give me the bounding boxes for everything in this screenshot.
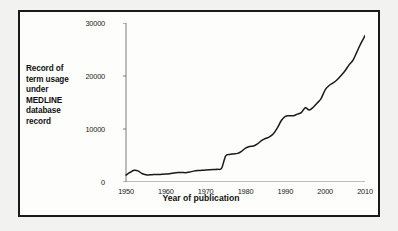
chart-frame: Record of term usage under MEDLINE datab…	[18, 10, 380, 217]
axis-lines	[126, 23, 365, 182]
line-chart-svg	[109, 23, 365, 182]
plot-area	[109, 23, 365, 182]
data-series-line	[126, 36, 365, 175]
x-axis-title: Year of publication	[20, 193, 382, 203]
